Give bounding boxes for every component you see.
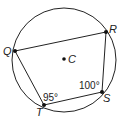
label-c: C <box>68 53 76 65</box>
label-s: S <box>103 92 111 104</box>
label-r: R <box>109 23 117 35</box>
angle-s-label: 100° <box>79 80 100 91</box>
point-r <box>104 30 108 34</box>
point-q <box>13 49 17 53</box>
quadrilateral-qrst <box>15 32 106 105</box>
label-q: Q <box>3 45 12 57</box>
inscribed-quadrilateral-diagram: Q R S T C 95° 100° <box>0 0 126 124</box>
angle-t-label: 95° <box>43 92 58 103</box>
center-point-c <box>62 57 66 61</box>
